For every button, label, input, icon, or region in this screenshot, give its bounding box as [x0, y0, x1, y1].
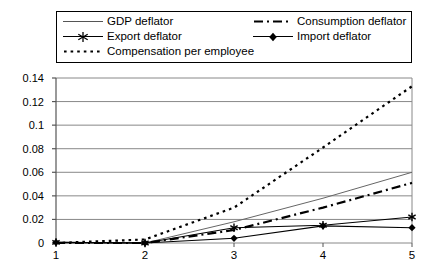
x-axis-tick-label: 2 [130, 249, 160, 261]
y-axis-tick-label: 0 [0, 237, 44, 249]
y-axis-tick-label: 0.02 [0, 213, 44, 225]
x-axis-tick-label: 5 [397, 249, 427, 261]
series-line [56, 172, 412, 243]
y-axis-tick-label: 0.04 [0, 190, 44, 202]
line-chart: GDP deflator Export deflator [0, 0, 440, 276]
y-axis-tick-label: 0.14 [0, 72, 44, 84]
y-axis-tick-label: 0.1 [0, 119, 44, 131]
y-axis-tick-label: 0.12 [0, 96, 44, 108]
x-axis-tick-label: 1 [41, 249, 71, 261]
data-point-diamond [230, 235, 237, 242]
x-axis-tick-label: 4 [308, 249, 338, 261]
data-point-diamond [408, 224, 415, 231]
series-line [56, 183, 412, 243]
y-axis-tick-label: 0.08 [0, 143, 44, 155]
y-axis-tick-label: 0.06 [0, 166, 44, 178]
plot-area [0, 0, 440, 276]
x-axis-tick-label: 3 [219, 249, 249, 261]
